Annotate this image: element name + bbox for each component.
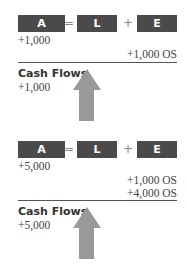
equals-sign: = — [64, 142, 74, 156]
cash-flow-entry: +5,000 — [18, 219, 50, 231]
asset-entry: +1,000 — [18, 34, 50, 46]
equity-entry: +1,000 OS — [127, 48, 177, 60]
liabilities-box: L — [77, 15, 117, 32]
equity-entry: +1,000 OS — [127, 174, 177, 186]
plus-sign: + — [123, 16, 133, 30]
assets-box: A — [18, 15, 65, 32]
equity-box: E — [137, 141, 177, 158]
plus-sign: + — [123, 142, 133, 156]
equity-entry: +4,000 OS — [127, 187, 177, 199]
asset-entry: +5,000 — [18, 160, 50, 172]
up-arrow-icon — [72, 206, 102, 260]
up-arrow-icon — [72, 68, 102, 122]
divider-rule — [18, 62, 177, 63]
liabilities-box: L — [77, 141, 117, 158]
cash-flow-entry: +1,000 — [18, 81, 50, 93]
equals-sign: = — [64, 16, 74, 30]
assets-box: A — [18, 141, 65, 158]
divider-rule — [18, 200, 177, 201]
equity-box: E — [137, 15, 177, 32]
